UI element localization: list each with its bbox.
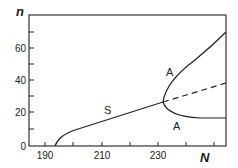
x-tick-labels: 190 210 230 bbox=[37, 150, 167, 161]
y-ticks bbox=[29, 32, 34, 129]
x-ticks bbox=[45, 142, 214, 146]
branch-s-label: S bbox=[104, 104, 111, 116]
svg-text:60: 60 bbox=[15, 43, 27, 54]
unstable-dashed-line bbox=[163, 83, 226, 102]
bifurcation-chart: 190 210 230 0 20 40 60 N n S A A bbox=[0, 0, 238, 168]
branch-a-lower-label: A bbox=[173, 120, 181, 132]
svg-text:190: 190 bbox=[37, 150, 54, 161]
y-tick-labels: 0 20 40 60 bbox=[15, 43, 27, 152]
svg-text:230: 230 bbox=[150, 150, 167, 161]
branch-a-upper-label: A bbox=[166, 66, 174, 78]
svg-text:40: 40 bbox=[15, 75, 27, 86]
branch-a-lower-line bbox=[163, 102, 226, 118]
svg-text:210: 210 bbox=[94, 150, 111, 161]
plot-frame bbox=[29, 15, 226, 146]
y-axis-label: n bbox=[16, 4, 24, 19]
x-axis-label: N bbox=[200, 150, 210, 165]
svg-text:20: 20 bbox=[15, 107, 27, 118]
svg-text:0: 0 bbox=[20, 141, 26, 152]
